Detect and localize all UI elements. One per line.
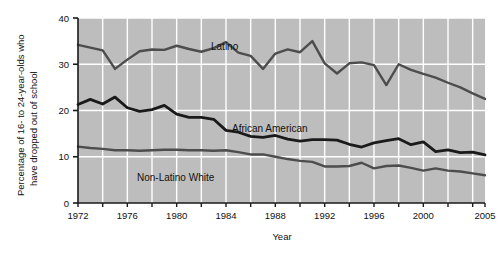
- x-tick-label: 1976: [117, 210, 138, 221]
- x-tick-label: 1992: [314, 210, 335, 221]
- y-tick-label: 20: [58, 105, 69, 116]
- series-label-african-american: African American: [232, 123, 308, 134]
- y-axis-title-line2: have dropped out of school: [28, 71, 39, 186]
- x-tick-label: 1996: [363, 210, 384, 221]
- series-label-non-latino-white: Non-Latino White: [137, 172, 215, 183]
- x-tick-label: 1980: [166, 210, 187, 221]
- series-label-latino: Latino: [211, 41, 239, 52]
- x-tick-label: 1984: [215, 210, 236, 221]
- y-tick-label: 10: [58, 151, 69, 162]
- dropout-rate-line-chart: 010203040 197219761980198419881992199620…: [0, 0, 503, 254]
- y-tick-label: 30: [58, 59, 69, 70]
- y-tick-label: 0: [64, 198, 69, 209]
- x-tick-label: 1972: [67, 210, 88, 221]
- x-axis-title: Year: [272, 231, 291, 242]
- y-axis-title-line1: Percentage of 16- to 24-year-olds who: [15, 34, 26, 196]
- x-tick-label: 1988: [265, 210, 286, 221]
- x-tick-label: 2000: [413, 210, 434, 221]
- x-tick-label: 2005: [474, 210, 495, 221]
- chart-svg: 010203040 197219761980198419881992199620…: [0, 0, 503, 254]
- y-tick-label: 40: [58, 13, 69, 24]
